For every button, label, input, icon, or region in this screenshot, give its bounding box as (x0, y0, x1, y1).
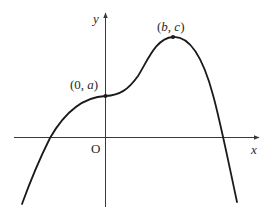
function-curve (22, 37, 237, 204)
x-axis-label: x (250, 142, 257, 157)
maximum-point (171, 35, 175, 39)
y-intercept-label: (0, a) (70, 77, 98, 92)
origin-label: O (91, 141, 100, 156)
maximum-label: (b, c) (157, 19, 184, 34)
y-axis-label: y (91, 11, 99, 26)
y-intercept-point (104, 94, 108, 98)
function-graph: y x O (0, a) (b, c) (0, 0, 273, 219)
